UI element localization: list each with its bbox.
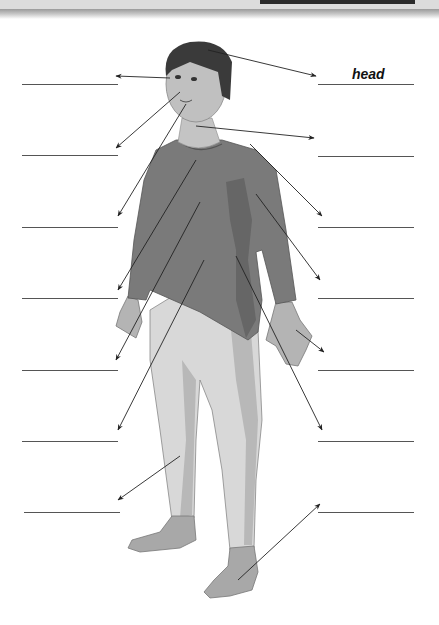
neck [178, 118, 220, 148]
arrow-left-1 [116, 76, 170, 78]
human-figure-illustration [0, 0, 439, 625]
right-hand [266, 302, 312, 366]
arrow-left-2 [116, 92, 180, 148]
left-hand [116, 296, 142, 338]
